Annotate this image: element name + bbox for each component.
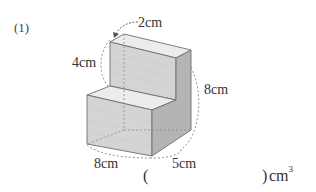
answer-input[interactable]	[170, 167, 260, 185]
answer-close-paren: )	[262, 167, 267, 185]
height-4cm-arc	[101, 40, 110, 88]
dim-upper-step-height: 4cm	[72, 56, 96, 70]
dim-total-height: 8cm	[204, 83, 228, 97]
answer-open-paren: (	[143, 167, 148, 185]
unit-exponent: 3	[289, 164, 294, 174]
dim-length: 8cm	[94, 157, 118, 171]
unit-text: cm	[269, 167, 289, 184]
dim-top-width: 2cm	[138, 16, 162, 30]
answer-unit: cm3	[269, 167, 293, 185]
top-2cm-arrow	[116, 22, 138, 34]
